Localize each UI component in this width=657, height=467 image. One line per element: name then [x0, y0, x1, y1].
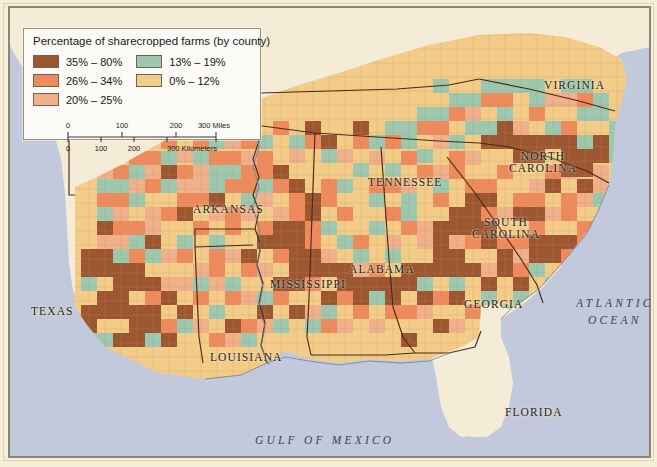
scale-miles-tick-0: 0 [66, 121, 70, 130]
legend-item-0-12[interactable]: 0% – 12% [136, 73, 225, 88]
legend-swatch-35-80 [33, 55, 59, 68]
legend-columns: 35% – 80% 26% – 34% 20% – 25% 13% – 19% [33, 54, 226, 107]
scale-bar-graphic: 0 100 200 300 Miles 0 100 200 [62, 119, 242, 155]
map-plate[interactable]: Percentage of sharecropped farms (by cou… [8, 6, 651, 458]
legend-swatch-20-25 [33, 93, 59, 106]
legend-label-35-80: 35% – 80% [66, 56, 122, 68]
legend-label-13-19: 13% – 19% [169, 56, 225, 68]
legend-title: Percentage of sharecropped farms (by cou… [33, 35, 270, 47]
map-legend[interactable]: Percentage of sharecropped farms (by cou… [23, 28, 261, 140]
scale-km-tick-200: 200 [128, 144, 141, 153]
legend-item-26-34[interactable]: 26% – 34% [33, 73, 122, 88]
scale-miles-tick-100: 100 [116, 121, 129, 130]
legend-label-20-25: 20% – 25% [66, 94, 122, 106]
scale-bar: 0 100 200 300 Miles 0 100 200 [62, 119, 242, 155]
legend-item-13-19[interactable]: 13% – 19% [136, 54, 225, 69]
legend-swatch-26-34 [33, 74, 59, 87]
scale-km-label: 300 Kilometers [167, 144, 217, 153]
legend-label-26-34: 26% – 34% [66, 75, 122, 87]
scale-km-tick-0: 0 [66, 144, 70, 153]
legend-item-20-25[interactable]: 20% – 25% [33, 92, 122, 107]
scale-miles-label: 300 Miles [198, 121, 230, 130]
legend-column-left: 35% – 80% 26% – 34% 20% – 25% [33, 54, 122, 107]
legend-item-35-80[interactable]: 35% – 80% [33, 54, 122, 69]
legend-swatch-0-12 [136, 74, 162, 87]
scale-miles-tick-200: 200 [170, 121, 183, 130]
scale-km-tick-100: 100 [95, 144, 108, 153]
legend-swatch-13-19 [136, 55, 162, 68]
legend-column-right: 13% – 19% 0% – 12% [136, 54, 225, 107]
map-page: Percentage of sharecropped farms (by cou… [0, 0, 657, 467]
legend-label-0-12: 0% – 12% [169, 75, 219, 87]
